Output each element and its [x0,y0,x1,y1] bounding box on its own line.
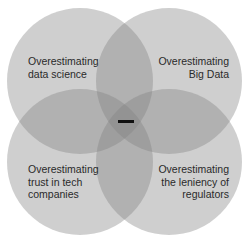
venn-diagram: Overestimating data science Overestimati… [0,0,249,242]
circle-bottom-right [96,89,242,235]
label-top-left: Overestimating data science [28,55,99,80]
center-dash-mark [118,120,134,123]
label-bottom-right: Overestimating the leniency of regulator… [158,163,229,201]
label-bottom-left: Overestimating trust in tech companies [28,163,99,201]
label-top-right: Overestimating Big Data [158,55,229,80]
